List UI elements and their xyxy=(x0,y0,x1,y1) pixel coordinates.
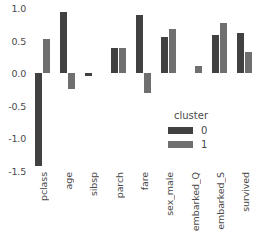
bar-parch-cluster-0 xyxy=(111,48,118,73)
x-tick-label-embarked_S: embarked_S xyxy=(215,172,226,230)
bar-embarked_S-cluster-0 xyxy=(212,35,219,73)
y-tick-label: -1.0 xyxy=(8,133,26,144)
bar-group xyxy=(131,8,156,171)
bar-group xyxy=(81,8,106,171)
x-tick-label-pclass: pclass xyxy=(38,172,49,201)
legend-item-1[interactable]: 1 xyxy=(168,139,260,150)
y-tick-label: -0.5 xyxy=(8,100,26,111)
x-tick-label-survived: survived xyxy=(240,172,251,212)
x-tick-label-embarked_Q: embarked_Q xyxy=(190,172,201,231)
bar-pclass-cluster-0 xyxy=(35,73,42,166)
legend-title: cluster xyxy=(174,110,260,121)
x-tick-label-fare: fare xyxy=(139,172,150,190)
legend-item-0[interactable]: 0 xyxy=(168,125,260,136)
y-axis: 1.00.50.0-0.5-1.0-1.5 xyxy=(0,8,29,171)
legend: cluster 01 xyxy=(168,110,260,153)
bar-age-cluster-1 xyxy=(68,73,75,89)
bar-age-cluster-0 xyxy=(60,12,67,73)
bar-survived-cluster-0 xyxy=(237,33,244,73)
legend-label: 0 xyxy=(201,125,207,136)
legend-swatch-icon xyxy=(168,127,193,134)
bar-fare-cluster-0 xyxy=(136,15,143,74)
x-tick-label-sex_male: sex_male xyxy=(164,172,175,216)
y-tick-label: 0.0 xyxy=(11,68,26,79)
bar-embarked_Q-cluster-1 xyxy=(195,66,202,73)
x-tick-label-parch: parch xyxy=(114,172,125,198)
bar-sibsp-cluster-0 xyxy=(85,73,92,76)
bar-survived-cluster-1 xyxy=(245,52,252,73)
y-tick-label: -1.5 xyxy=(8,166,26,177)
legend-entries: 01 xyxy=(168,125,260,150)
bar-pclass-cluster-1 xyxy=(43,39,50,73)
bar-sex_male-cluster-0 xyxy=(161,37,168,73)
legend-swatch-icon xyxy=(168,141,193,148)
x-tick-label-sibsp: sibsp xyxy=(88,172,99,196)
bar-fare-cluster-1 xyxy=(144,73,151,93)
y-tick-label: 1.0 xyxy=(11,3,26,14)
bar-group xyxy=(55,8,80,171)
bar-sex_male-cluster-1 xyxy=(169,29,176,73)
bar-group xyxy=(30,8,55,171)
x-tick-label-age: age xyxy=(63,172,74,189)
legend-label: 1 xyxy=(201,139,207,150)
y-tick-label: 0.5 xyxy=(11,35,26,46)
x-axis: pclassagesibspparchfaresex_maleembarked_… xyxy=(30,172,258,244)
bar-chart: 1.00.50.0-0.5-1.0-1.5 pclassagesibspparc… xyxy=(0,0,265,245)
bar-embarked_S-cluster-1 xyxy=(220,23,227,73)
bar-parch-cluster-1 xyxy=(119,48,126,73)
bar-group xyxy=(106,8,131,171)
